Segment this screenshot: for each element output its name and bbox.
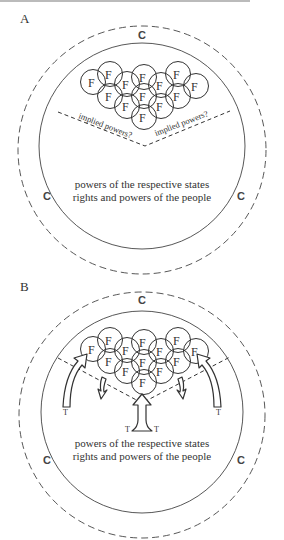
federal-powers-cluster: F F F F F F F F F F F F F [81, 328, 209, 395]
federal-power: F [156, 100, 163, 114]
header-fragment [0, 0, 250, 2]
constitution-label-top: C [138, 29, 146, 41]
caption-people: rights and powers of the people [73, 450, 211, 462]
federal-power: F [173, 68, 180, 82]
arrow-label-t: T [125, 425, 130, 434]
panel-a: A C C C implied powers? implied powers? … [18, 11, 266, 274]
implied-powers-left: implied powers? [77, 111, 133, 141]
right-curved-arrow [197, 354, 221, 407]
federal-power: F [105, 334, 112, 348]
arrow-label-t: T [63, 408, 68, 417]
constitution-label-left: C [43, 454, 51, 466]
federal-power: F [173, 334, 180, 348]
federal-power: F [122, 100, 129, 114]
constitution-label-right: C [237, 454, 245, 466]
federal-power: F [139, 336, 146, 350]
arrow-label-t: T [154, 425, 159, 434]
federal-power: F [156, 79, 163, 93]
federal-power: F [122, 78, 129, 92]
diagram-canvas: A C C C implied powers? implied powers? … [0, 0, 284, 540]
federal-power: F [105, 90, 112, 104]
panel-b: B C C C F F F F F F F F F F F F F T T T [19, 279, 265, 538]
federal-power: F [88, 76, 95, 90]
caption-states: powers of the respective states [75, 437, 209, 449]
constitution-label-left: C [43, 190, 51, 202]
caption-people: rights and powers of the people [73, 191, 211, 203]
federal-power: F [105, 355, 112, 369]
arrow-label-t: T [216, 408, 221, 417]
constitution-label-right: C [237, 190, 245, 202]
federal-power: F [88, 343, 95, 357]
federal-power: F [139, 71, 146, 85]
federal-power: F [156, 345, 163, 359]
federal-power: F [191, 80, 198, 94]
federal-power: F [122, 365, 129, 379]
left-curved-arrow [63, 354, 87, 407]
federal-power: F [139, 111, 146, 125]
panel-a-label: A [20, 11, 30, 26]
federal-power: F [139, 376, 146, 390]
federal-power: F [139, 90, 146, 104]
left-small-arrow [98, 377, 107, 399]
federal-power: F [173, 355, 180, 369]
federal-power: F [156, 365, 163, 379]
federal-power: F [105, 68, 112, 82]
caption-states: powers of the respective states [75, 178, 209, 190]
federal-power: F [139, 356, 146, 370]
federal-power: F [173, 90, 180, 104]
constitution-label-top: C [138, 294, 146, 306]
panel-b-label: B [20, 279, 29, 294]
constitution-dashed-boundary [18, 26, 266, 274]
federal-power: F [122, 344, 129, 358]
